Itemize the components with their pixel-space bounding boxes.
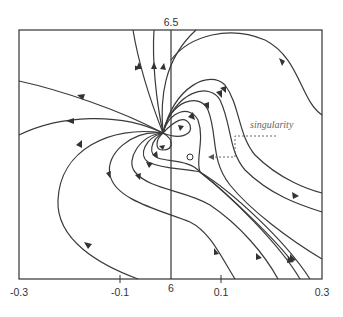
bottom-axis-center-label: 6 <box>168 282 174 294</box>
x-tick-label: 0.1 <box>214 286 229 298</box>
top-axis-label: 6.5 <box>164 16 179 28</box>
singularity-annotation: singularity <box>250 119 293 130</box>
phase-portrait-plot <box>0 0 343 317</box>
x-tick-label: -0.3 <box>10 286 28 298</box>
x-tick-label: -0.1 <box>111 286 129 298</box>
singularity-marker <box>187 154 193 160</box>
annotation-leader <box>210 136 276 157</box>
x-tick-label: 0.3 <box>315 286 330 298</box>
